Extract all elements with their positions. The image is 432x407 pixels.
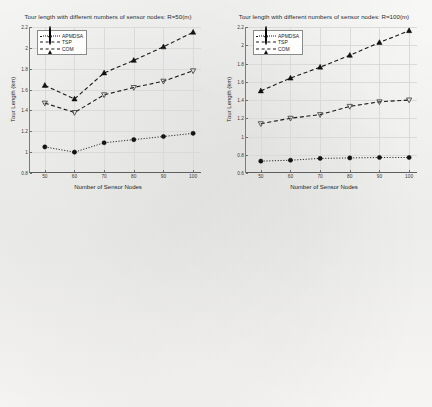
data-point-circle — [407, 155, 411, 159]
panel-tour-length-r50: Tour length with different numbers of se… — [0, 0, 216, 204]
series-line-com — [45, 71, 193, 113]
y-tick-mark — [246, 173, 248, 174]
marker-triangle-down-icon — [48, 36, 52, 57]
y-tick-label: 1.6 — [21, 87, 28, 92]
x-tick-label: 60 — [72, 174, 77, 179]
y-tick-label: 1.6 — [237, 79, 244, 84]
data-point-circle — [72, 150, 76, 154]
data-point-triangle-up — [377, 40, 382, 45]
x-tick-label: 100 — [189, 174, 197, 179]
x-tick-label: 80 — [347, 174, 352, 179]
legend-sample — [40, 46, 60, 52]
y-tick-mark — [30, 173, 32, 174]
legend-item-apmdsa[interactable]: APMDSA — [256, 33, 299, 40]
x-tick-label: 70 — [101, 174, 106, 179]
panel-tour-length-r100: Tour length with different numbers of se… — [216, 0, 432, 204]
y-tick-label: 0.8 — [21, 171, 28, 176]
x-tick-label: 90 — [161, 174, 166, 179]
legend-item-tsp[interactable]: TSP — [256, 39, 299, 46]
legend-item-com[interactable]: COM — [40, 46, 83, 53]
x-tick-label: 90 — [377, 174, 382, 179]
data-point-triangle-up — [42, 83, 47, 88]
y-tick-label: 2.2 — [237, 25, 244, 30]
legend-item-com[interactable]: COM — [256, 46, 299, 53]
x-tick-label: 100 — [405, 174, 413, 179]
y-tick-label: 1.2 — [237, 116, 244, 121]
legend-label: APMDSA — [278, 33, 299, 39]
data-point-circle — [161, 134, 165, 138]
panel-run-time-r100: Tour length with different numbers of se… — [216, 204, 432, 407]
data-point-circle — [318, 156, 322, 160]
y-tick-label: 1.4 — [21, 108, 28, 113]
series-line-apmdsa — [45, 133, 193, 152]
data-point-circle — [43, 145, 47, 149]
x-axis-label: Number of Sensor Nodes — [216, 184, 432, 190]
legend-label: TSP — [278, 39, 288, 45]
legend-sample — [256, 46, 276, 52]
data-point-triangle-down — [72, 111, 77, 116]
data-point-circle — [348, 156, 352, 160]
data-point-circle — [288, 158, 292, 162]
data-point-triangle-down — [258, 122, 263, 127]
x-tick-label: 50 — [42, 174, 47, 179]
x-axis-label: Number of Sensor Nodes — [0, 184, 216, 190]
chart-legend: APMDSATSPCOM — [37, 30, 87, 55]
data-point-circle — [191, 131, 195, 135]
x-tick-label: 50 — [258, 174, 263, 179]
y-tick-label: 1 — [25, 150, 28, 155]
data-point-triangle-up — [318, 64, 323, 69]
chart-title: Tour length with different numbers of se… — [0, 13, 216, 20]
chart-legend: APMDSATSPCOM — [253, 30, 303, 55]
data-point-circle — [102, 141, 106, 145]
data-point-triangle-down — [102, 93, 107, 98]
y-tick-label: 0.6 — [237, 171, 244, 176]
legend-label: COM — [62, 46, 74, 52]
y-tick-label: 2 — [241, 43, 244, 48]
y-tick-label: 1.2 — [21, 129, 28, 134]
data-point-triangle-up — [347, 52, 352, 57]
y-axis-label: Tour Length (km) — [226, 77, 232, 122]
data-point-triangle-down — [191, 69, 196, 74]
x-tick-label: 80 — [131, 174, 136, 179]
y-axis-label: Tour Length (km) — [10, 77, 16, 122]
y-tick-label: 1.4 — [237, 98, 244, 103]
y-tick-label: 1 — [241, 134, 244, 139]
panel-run-time-r50: Tour length with different numbers of se… — [0, 204, 216, 407]
x-tick-label: 60 — [288, 174, 293, 179]
legend-marker — [48, 40, 52, 58]
marker-triangle-down-icon — [264, 36, 268, 57]
figure-grid: Tour length with different numbers of se… — [0, 0, 432, 407]
legend-marker — [264, 40, 268, 58]
legend-item-tsp[interactable]: TSP — [40, 39, 83, 46]
y-tick-label: 2.2 — [21, 25, 28, 30]
legend-label: COM — [278, 46, 290, 52]
series-line-com — [261, 100, 409, 124]
data-point-circle — [132, 138, 136, 142]
legend-item-apmdsa[interactable]: APMDSA — [40, 33, 83, 40]
data-point-triangle-up — [407, 28, 412, 33]
legend-label: APMDSA — [62, 33, 83, 39]
data-point-circle — [377, 155, 381, 159]
data-point-circle — [259, 159, 263, 163]
y-tick-label: 1.8 — [237, 61, 244, 66]
series-line-apmdsa — [261, 157, 409, 161]
chart-title: Tour length with different numbers of se… — [216, 13, 432, 20]
legend-label: TSP — [62, 39, 72, 45]
data-point-triangle-up — [191, 29, 196, 34]
y-tick-label: 2 — [25, 45, 28, 50]
y-tick-label: 1.8 — [21, 66, 28, 71]
y-tick-label: 0.8 — [237, 152, 244, 157]
x-tick-label: 70 — [317, 174, 322, 179]
